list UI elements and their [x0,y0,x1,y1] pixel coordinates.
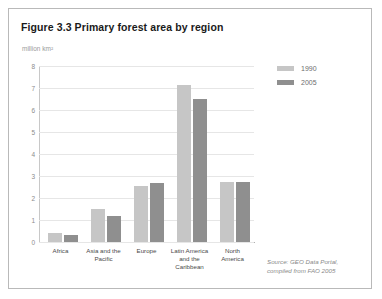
y-axis-tick-label: 3 [13,173,35,180]
bar [91,209,105,242]
y-axis-tick-label: 2 [13,195,35,202]
gridline [39,242,254,243]
bar [150,183,164,242]
legend-item: 2005 [277,79,317,86]
x-axis-tick-label-line: Pacific [82,255,125,263]
bar [107,216,121,242]
plot-area [39,66,254,242]
source-note: Source: GEO Data Portal, compiled from F… [267,257,371,275]
bar-group [177,66,207,242]
y-axis: 012345678 [12,66,35,242]
x-axis-tick-label-line: Latin America [168,247,211,255]
bar [64,235,78,242]
x-axis-tick-label: Africa [39,247,82,255]
legend-label: 2005 [301,79,317,86]
figure-card: Figure 3.3 Primary forest area by region… [8,8,372,289]
bar-group [91,66,121,242]
x-axis-tick-label: Latin Americaand theCaribbean [168,247,211,272]
bar [193,99,207,242]
x-axis-tick-label-line: North [211,247,254,255]
y-axis-tick-label: 0 [13,239,35,246]
x-axis-tick-label-line: and the [168,255,211,263]
y-axis-tick-label: 8 [13,63,35,70]
source-line-2: compiled from FAO 2005 [267,266,371,275]
x-axis-tick-label-line: America [211,255,254,263]
legend-label: 1990 [301,65,317,72]
y-axis-tick-label: 1 [13,217,35,224]
y-axis-tick-label: 7 [13,85,35,92]
bar [134,186,148,242]
y-axis-tick-label: 6 [13,107,35,114]
chart-legend: 19902005 [277,65,317,93]
bar [220,182,234,243]
x-axis-tick-label: Asia and thePacific [82,247,125,263]
bar [236,182,250,243]
x-axis-tick-label-line: Africa [39,247,82,255]
bar-group [48,66,78,242]
x-axis-tick-label-line: Europe [125,247,168,255]
axis-unit-label: million km² [22,45,53,52]
source-line-1: Source: GEO Data Portal, [267,257,371,266]
x-axis-tick-label: NorthAmerica [211,247,254,263]
bar [48,233,62,242]
bar-group [220,66,250,242]
legend-item: 1990 [277,65,317,72]
page-title: Figure 3.3 Primary forest area by region [21,21,223,33]
x-axis-tick-label-line: Caribbean [168,263,211,271]
legend-swatch [277,66,294,71]
x-axis-tick-label: Europe [125,247,168,255]
bar [177,85,191,242]
bar-group [134,66,164,242]
y-axis-tick-label: 4 [13,151,35,158]
y-axis-tick-label: 5 [13,129,35,136]
x-axis-tick-label-line: Asia and the [82,247,125,255]
legend-swatch [277,80,294,85]
